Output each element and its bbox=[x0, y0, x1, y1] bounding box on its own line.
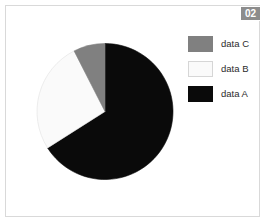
legend-swatch-data-a bbox=[188, 86, 213, 102]
legend-item-data-c: data C bbox=[188, 31, 260, 56]
legend-label-data-a: data A bbox=[221, 88, 248, 99]
pie-chart bbox=[36, 42, 174, 181]
legend-label-data-c: data C bbox=[221, 38, 249, 49]
legend-item-data-a: data A bbox=[188, 81, 260, 106]
chart-legend: data C data B data A bbox=[188, 31, 260, 106]
legend-swatch-data-b bbox=[188, 61, 213, 77]
legend-swatch-data-c bbox=[188, 36, 213, 52]
pie-chart-svg bbox=[36, 42, 174, 181]
figure-root: 02 data C data B data A bbox=[0, 0, 267, 224]
legend-label-data-b: data B bbox=[221, 63, 248, 74]
legend-item-data-b: data B bbox=[188, 56, 260, 81]
figure-number-badge: 02 bbox=[240, 6, 261, 21]
